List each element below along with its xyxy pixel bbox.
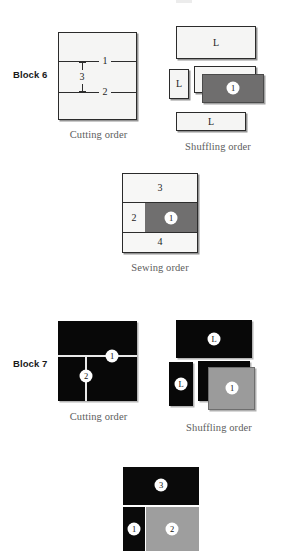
block-6-shuffle-label-L-small: L [176, 79, 182, 89]
block-6-cut-label-2: 2 [103, 87, 108, 97]
block-6-sewing-label-2: 2 [132, 213, 137, 223]
block-6-sewing-label-3: 3 [158, 183, 163, 193]
block-7-cut-label-1: 1 [106, 350, 119, 363]
page-top-artifact [176, 0, 192, 3]
block-6-shuffle-label-L-bottom: L [208, 117, 214, 127]
block-7-sewing-panel: 3 1 2 [123, 467, 211, 551]
block-7-shuffling-caption: Shuffling order [163, 422, 275, 433]
block-7-sewing-label-1: 1 [128, 523, 141, 536]
block-7-cut-line-1 [58, 355, 137, 357]
block-6-shuffling-caption: Shuffling order [163, 141, 273, 152]
figure-canvas: Block 6 1 3 2 Cutting order [0, 0, 283, 551]
block-7-sewing-label-2: 2 [166, 523, 179, 536]
block-6-sewing-caption: Sewing order [110, 262, 210, 273]
block-6-cutting-fabric [58, 32, 137, 120]
block-6-cut-line-3-tick-top [79, 62, 86, 63]
block-7-shuffle-label-1: 1 [226, 382, 239, 395]
block-7-cutting-caption: Cutting order [46, 411, 151, 422]
block-6-cut-label-3: 3 [80, 72, 85, 82]
block-7-shuffle-label-L-small: L [175, 378, 188, 391]
block-7-shuffle-label-L-top: L [208, 333, 221, 346]
block-6-cutting-caption: Cutting order [46, 129, 151, 140]
block-6-cut-label-1: 1 [103, 56, 108, 66]
block-6-shuffle-label-1: 1 [227, 82, 240, 95]
block-6-cut-line-1 [59, 61, 136, 62]
block-7-shuffling-panel: L L 1 Shuffling order [166, 312, 278, 432]
block-7-cutting-panel: 1 2 Cutting order [58, 321, 143, 416]
block-6-cut-line-3-tick-bottom [79, 91, 86, 92]
block-6-cut-line-2 [59, 92, 136, 93]
block-7-group: Block 7 1 2 Cutting order L L 1 [0, 312, 283, 551]
block-6-shuffling-panel: L L 1 L Shuffling order [166, 18, 276, 148]
block-7-cutting-fabric [58, 321, 137, 401]
block-6-group: Block 6 1 3 2 Cutting order [0, 18, 283, 283]
block-6-sewing-panel: 3 2 1 4 Sewing order [122, 173, 212, 283]
block-6-shuffle-label-L-top: L [213, 38, 219, 48]
block-7-label: Block 7 [13, 358, 48, 369]
block-7-cut-label-2: 2 [80, 370, 93, 383]
block-6-sewing-label-4: 4 [158, 237, 163, 247]
block-6-cutting-panel: 1 3 2 Cutting order [58, 32, 139, 122]
block-6-label: Block 6 [13, 69, 48, 80]
block-7-sewing-label-3: 3 [155, 479, 168, 492]
block-6-sewing-label-1: 1 [165, 212, 178, 225]
